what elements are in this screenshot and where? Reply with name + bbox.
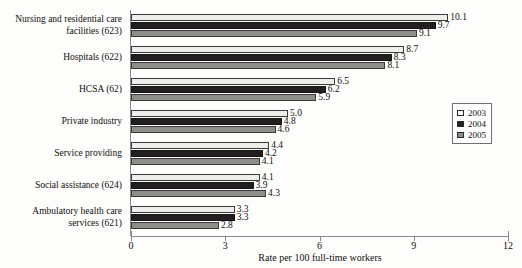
legend-label: 2004 [468, 119, 486, 129]
legend-swatch-icon [457, 132, 464, 138]
bar-2005-2 [131, 94, 316, 101]
bar-value-label: 5.9 [318, 93, 330, 102]
category-label: Nursing and residential carefacilities (… [0, 14, 122, 37]
bar-2005-3 [131, 126, 276, 133]
bar-2005-0 [131, 30, 417, 37]
category-label: Service providing [0, 148, 122, 160]
x-tick-label: 0 [129, 240, 134, 251]
bar-2003-2 [131, 78, 335, 85]
x-tick-label: 6 [317, 240, 322, 251]
bar-2004-1 [131, 54, 392, 61]
bar-value-label: 3.9 [256, 181, 268, 190]
bar-2005-5 [131, 190, 266, 197]
category-label: Hospitals (622) [0, 52, 122, 64]
bar-2003-6 [131, 206, 235, 213]
category-label: Private industry [0, 116, 122, 128]
bar-2004-6 [131, 214, 235, 221]
bar-2003-5 [131, 174, 260, 181]
bar-value-label: 8.7 [406, 45, 418, 54]
bar-2004-0 [131, 22, 436, 29]
bar-value-label: 9.7 [438, 21, 450, 30]
bar-2003-0 [131, 14, 448, 21]
x-tick-label: 3 [223, 240, 228, 251]
bar-group: 3.33.32.8 [131, 206, 508, 229]
bar-value-label: 4.3 [268, 189, 280, 198]
bar-value-label: 2.8 [221, 221, 233, 230]
category-label: Social assistance (624) [0, 180, 122, 192]
bar-value-label: 3.3 [237, 213, 249, 222]
bar-group: 4.44.24.1 [131, 142, 508, 165]
category-axis-labels: Nursing and residential carefacilities (… [0, 10, 126, 236]
x-tick-label: 9 [411, 240, 416, 251]
bar-value-label: 10.1 [450, 13, 467, 22]
bar-value-label: 9.1 [419, 29, 431, 38]
bar-2005-1 [131, 62, 385, 69]
bar-2005-4 [131, 158, 260, 165]
legend-label: 2003 [468, 108, 486, 118]
x-tick-label: 12 [503, 240, 513, 251]
bar-group: 6.56.25.9 [131, 78, 508, 101]
legend-swatch-icon [457, 110, 464, 116]
bar-2004-5 [131, 182, 254, 189]
bar-2004-3 [131, 118, 282, 125]
category-label: HCSA (62) [0, 84, 122, 96]
legend-swatch-icon [457, 121, 464, 127]
legend-label: 2005 [468, 130, 486, 140]
bar-value-label: 8.1 [387, 61, 399, 70]
bar-group: 10.19.79.1 [131, 14, 508, 37]
bar-2004-4 [131, 150, 263, 157]
bar-value-label: 4.6 [278, 125, 290, 134]
bar-2005-6 [131, 222, 219, 229]
legend: 200320042005 [452, 103, 492, 144]
bar-group: 4.13.94.3 [131, 174, 508, 197]
bar-2004-2 [131, 86, 326, 93]
x-axis-title: Rate per 100 full-time workers [131, 252, 509, 263]
legend-item-2004: 2004 [457, 118, 486, 129]
bar-group: 8.78.38.1 [131, 46, 508, 69]
bar-2003-4 [131, 142, 269, 149]
bar-2003-1 [131, 46, 404, 53]
bar-value-label: 4.1 [262, 157, 274, 166]
legend-item-2003: 2003 [457, 107, 486, 118]
category-label: Ambulatory health careservices (621) [0, 206, 122, 229]
bar-chart: Nursing and residential carefacilities (… [0, 0, 522, 268]
bar-2003-3 [131, 110, 288, 117]
legend-item-2005: 2005 [457, 129, 486, 140]
